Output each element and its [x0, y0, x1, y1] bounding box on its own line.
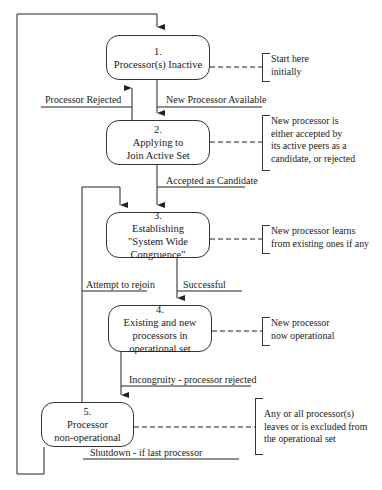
note-line: its active peers as a: [271, 140, 355, 153]
note-line: initially: [271, 66, 309, 79]
state-label: Congruence": [130, 248, 185, 261]
transition-processor-rejected: Processor Rejected: [45, 94, 121, 106]
state-label: operational set: [129, 342, 191, 355]
state-1-processors-inactive: 1. Processor(s) Inactive: [106, 35, 210, 80]
state-number: 1.: [154, 45, 162, 58]
transition-new-processor-available: New Processor Available: [166, 94, 266, 106]
state-5-non-operational: 5. Processor non-operational: [41, 402, 134, 447]
state-label: processors in: [132, 329, 187, 342]
note-line: leaves or is excluded from: [264, 421, 367, 434]
transition-shutdown: Shutdown - if last processor: [90, 447, 202, 459]
state-2-applying-to-join: 2. Applying to Join Active Set: [106, 120, 210, 165]
state-label: Join Active Set: [126, 149, 190, 162]
note-state-4: New processor now operational: [262, 317, 334, 346]
transition-successful: Successful: [183, 279, 226, 291]
note-line: either accepted by: [271, 128, 355, 141]
note-line: candidate, or rejected: [271, 153, 355, 166]
note-line: Start here: [271, 53, 309, 66]
note-state-2: New processor is either accepted by its …: [262, 115, 355, 171]
note-line: from existing ones if any: [271, 238, 369, 251]
state-label: "System Wide: [128, 235, 188, 248]
state-number: 2.: [154, 123, 162, 136]
state-4-operational-set: 4. Existing and new processors in operat…: [108, 305, 212, 352]
transition-incongruity-rejected: Incongruity - processor rejected: [129, 374, 256, 386]
note-line: New processor is: [271, 115, 355, 128]
note-state-3: New processor learns from existing ones …: [262, 225, 369, 254]
state-label: Existing and new: [124, 316, 197, 329]
state-label: non-operational: [54, 431, 120, 444]
state-label: Applying to: [133, 136, 183, 149]
transition-accepted-as-candidate: Accepted as Candidate: [166, 175, 258, 187]
note-state-1: Start here initially: [262, 53, 309, 82]
note-line: New processor: [271, 317, 334, 330]
note-line: the operational set: [264, 433, 367, 446]
state-label: Establishing: [132, 222, 184, 235]
state-number: 3.: [154, 209, 162, 222]
note-line: New processor learns: [271, 225, 369, 238]
note-line: now operational: [271, 330, 334, 343]
state-label: Processor(s) Inactive: [114, 58, 202, 71]
note-line: Any or all processor(s): [264, 408, 367, 421]
state-number: 4.: [156, 303, 164, 316]
state-3-establishing-congruence: 3. Establishing "System Wide Congruence": [106, 212, 210, 258]
state-label: Processor: [67, 418, 108, 431]
cutoff-caption-fragment: [140, 484, 382, 490]
note-state-5: Any or all processor(s) leaves or is exc…: [255, 398, 367, 455]
state-number: 5.: [84, 405, 92, 418]
transition-attempt-to-rejoin: Attempt to rejoin: [86, 279, 155, 291]
